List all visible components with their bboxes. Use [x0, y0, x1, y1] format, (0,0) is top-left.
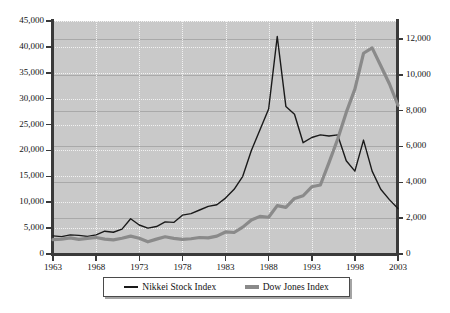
- x-axis-tick: [139, 256, 141, 261]
- chart-legend: Nikkei Stock Index Dow Jones Index: [103, 277, 350, 297]
- right-axis-tick-label: 6,000: [406, 141, 426, 150]
- left-axis-tick-label: 0: [40, 249, 45, 258]
- right-axis-tick: [398, 74, 403, 76]
- x-axis-tick-label: 1978: [162, 262, 202, 272]
- left-axis-tick-label: 35,000: [19, 68, 44, 77]
- x-axis-tick: [225, 256, 227, 261]
- x-axis-tick-label: 1968: [76, 262, 116, 272]
- left-axis-tick-label: 15,000: [19, 171, 44, 180]
- stock-index-line-chart: 05,00010,00015,00020,00025,00030,00035,0…: [0, 0, 450, 313]
- x-axis-tick-label: 1973: [119, 262, 159, 272]
- series-line-dow: [53, 48, 398, 242]
- left-axis-tick: [46, 20, 51, 22]
- dow-line-swatch-icon: [245, 285, 259, 288]
- x-axis-tick-label: 1963: [33, 262, 73, 272]
- x-axis-tick: [268, 256, 270, 261]
- x-axis-tick: [182, 256, 184, 261]
- series-plot: [53, 21, 398, 254]
- right-axis-tick-label: 10,000: [406, 70, 431, 79]
- left-axis-tick: [46, 227, 51, 229]
- left-axis-tick-label: 25,000: [19, 120, 44, 129]
- right-axis-tick: [398, 253, 403, 255]
- legend-label-dow: Dow Jones Index: [263, 282, 329, 292]
- x-axis-tick: [354, 256, 356, 261]
- left-axis-tick: [46, 72, 51, 74]
- right-axis-tick: [398, 217, 403, 219]
- left-axis-tick: [46, 201, 51, 203]
- right-axis-tick-label: 2,000: [406, 213, 426, 222]
- legend-entry-dow: Dow Jones Index: [245, 282, 329, 292]
- left-axis-tick-label: 10,000: [19, 197, 44, 206]
- legend-label-nikkei: Nikkei Stock Index: [142, 282, 216, 292]
- x-axis-tick-label: 1998: [335, 262, 375, 272]
- right-axis-tick-label: 0: [406, 249, 411, 258]
- x-axis-tick-label: 1983: [206, 262, 246, 272]
- left-axis-tick: [46, 253, 51, 255]
- left-axis-tick-label: 40,000: [19, 42, 44, 51]
- series-line-nikkei: [53, 37, 398, 237]
- x-axis-tick-label: 1993: [292, 262, 332, 272]
- x-axis-tick: [52, 256, 54, 261]
- left-axis-tick: [46, 98, 51, 100]
- x-axis-tick: [95, 256, 97, 261]
- left-axis-tick-label: 5,000: [24, 223, 44, 232]
- x-axis-tick: [311, 256, 313, 261]
- left-axis-tick: [46, 46, 51, 48]
- nikkei-line-swatch-icon: [124, 286, 138, 288]
- legend-entry-nikkei: Nikkei Stock Index: [124, 282, 216, 292]
- right-axis-tick: [398, 146, 403, 148]
- x-axis-tick: [397, 256, 399, 261]
- left-axis-tick: [46, 176, 51, 178]
- right-axis-tick-label: 8,000: [406, 106, 426, 115]
- left-axis-tick-label: 30,000: [19, 94, 44, 103]
- left-axis-tick: [46, 124, 51, 126]
- left-axis-tick-label: 45,000: [19, 16, 44, 25]
- right-axis-tick: [398, 182, 403, 184]
- right-axis-tick-label: 4,000: [406, 177, 426, 186]
- right-axis-tick: [398, 110, 403, 112]
- x-axis-tick-label: 1988: [249, 262, 289, 272]
- right-axis-tick: [398, 38, 403, 40]
- left-axis-tick: [46, 150, 51, 152]
- x-axis-tick-label: 2003: [378, 262, 418, 272]
- left-axis-tick-label: 20,000: [19, 145, 44, 154]
- right-axis-tick-label: 12,000: [406, 34, 431, 43]
